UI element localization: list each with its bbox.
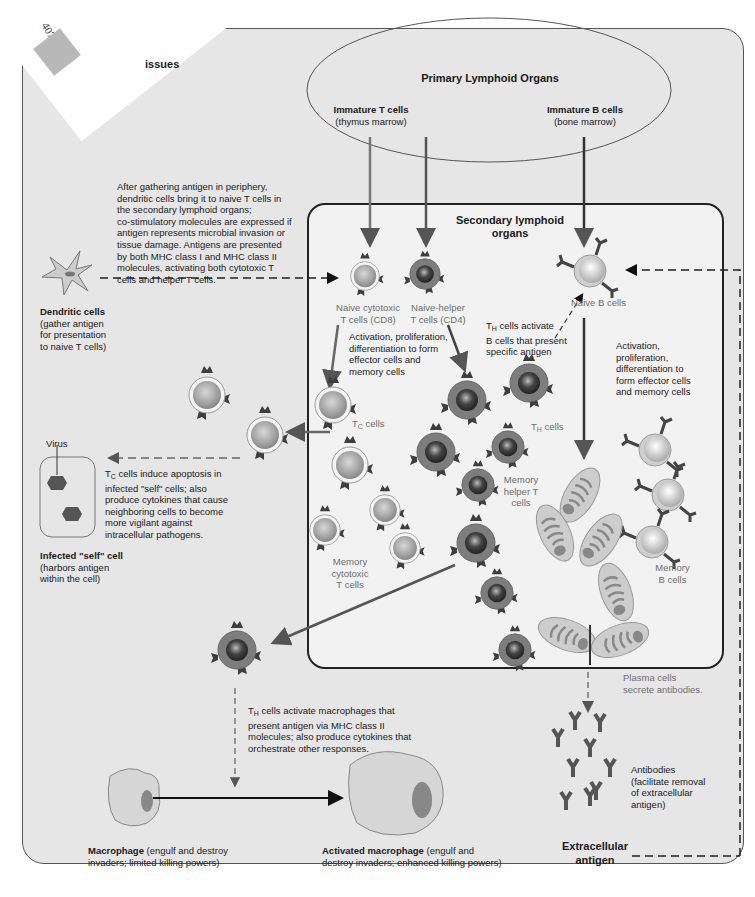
- activation-b-note: Activation,proliferation,differentiation…: [616, 340, 691, 398]
- activated-macrophage-icon: [349, 752, 444, 835]
- dendritic-note: After gathering antigen in periphery,den…: [117, 181, 292, 285]
- activated-macrophage-label: Activated macrophage (engulf and destroy…: [322, 845, 502, 868]
- tc-cells-label: TC cells: [352, 418, 385, 433]
- macrophage-icon: [108, 769, 159, 826]
- virus-label: Virus: [46, 438, 67, 450]
- immature-b-label: Immature B cells (bone marrow): [530, 104, 640, 127]
- tc-apoptosis-note: TC cells induce apoptosis in infected "s…: [105, 468, 228, 541]
- immature-t-label: Immature T cells (thymus marrow): [316, 104, 426, 127]
- diagram-graphics: [0, 0, 755, 897]
- memory-cytotoxic-label: MemorycytotoxicT cells: [325, 556, 375, 591]
- extracellular-antigen-label: Extracellularantigen: [555, 839, 635, 867]
- naive-helper-label: Naive-helperT cells (CD4): [398, 302, 478, 325]
- macrophage-label: Macrophage (engulf and destroy invaders;…: [88, 845, 228, 868]
- th-cells-label: TH cells: [531, 421, 564, 436]
- plasma-note: Plasma cellssecrete antibodies.: [623, 672, 703, 695]
- infected-cell-label: Infected "self" cell (harbors antigenwit…: [40, 550, 123, 585]
- primary-organs-ellipse: [307, 18, 671, 162]
- antibodies-note: Antibodies(facilitate removalof extracel…: [631, 764, 705, 810]
- memory-helper-label: Memoryhelper Tcells: [496, 474, 546, 509]
- dendritic-cell-icon: [42, 251, 92, 295]
- secondary-organs-title: Secondary lymphoid organs: [430, 214, 590, 240]
- th-activate-b-note: TH cells activate B cells that presentsp…: [486, 320, 567, 358]
- naive-b-label: Naive B cells: [571, 297, 626, 309]
- primary-organs-title: Primary Lymphoid Organs: [370, 73, 610, 85]
- infected-cell-outline: [40, 457, 95, 537]
- th-macrophage-note: TH cells activate macrophages that prese…: [248, 705, 411, 754]
- memory-b-label: MemoryB cells: [650, 562, 695, 585]
- dendritic-label: Dendritic cells (gather antigenfor prese…: [40, 306, 106, 352]
- activation-t-note: Activation, proliferation,differentiatio…: [349, 331, 448, 377]
